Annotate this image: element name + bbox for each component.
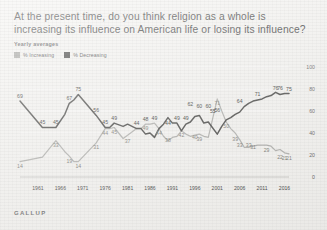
y-tick-label: 20 <box>309 152 315 158</box>
x-tick-label: 2011 <box>257 185 268 191</box>
legend-item-increasing[interactable]: % Increasing <box>14 52 54 58</box>
x-tick-label: 2001 <box>212 185 223 191</box>
x-tick-label: 1986 <box>144 185 155 191</box>
data-label: 45 <box>53 120 59 126</box>
data-label: 21 <box>286 156 292 162</box>
data-label: 44 <box>156 130 162 136</box>
x-tick-label: 2006 <box>234 185 245 191</box>
chart-card: At the present time, do you think religi… <box>0 0 327 230</box>
data-label: 45 <box>102 120 108 126</box>
data-label: 49 <box>174 115 180 121</box>
data-label: 31 <box>250 145 256 151</box>
data-label: 44 <box>102 130 108 136</box>
y-tick-label: 100 <box>306 64 315 70</box>
data-label: 29 <box>264 147 270 153</box>
chart-legend: % Increasing % Decreasing <box>14 52 315 58</box>
data-label: 45 <box>111 129 117 135</box>
data-label: 42 <box>179 133 185 139</box>
x-tick-label: 1981 <box>122 185 133 191</box>
y-tick-label: 80 <box>309 86 315 92</box>
data-label: 48 <box>143 116 149 122</box>
data-label: 64 <box>237 99 243 105</box>
line-chart-svg: 1433191431444537494438424039715039333331… <box>12 61 315 181</box>
x-tick-label: 1976 <box>100 185 111 191</box>
data-label: 62 <box>187 101 193 107</box>
chart-subtitle: Yearly averages <box>14 41 315 47</box>
data-label: 49 <box>143 125 149 131</box>
data-label: 75 <box>75 87 81 93</box>
data-label: 39 <box>196 136 202 142</box>
data-label: 44 <box>134 121 140 127</box>
legend-item-decreasing[interactable]: % Decreasing <box>64 52 107 58</box>
x-axis: 1961196619711976198119861991199620012006… <box>12 182 315 196</box>
data-label: 69 <box>17 93 23 99</box>
source-attribution: GALLUP <box>14 210 46 216</box>
data-label: 31 <box>93 145 99 151</box>
data-label: 14 <box>75 163 81 169</box>
x-tick-label: 1991 <box>167 185 178 191</box>
x-tick-label: 1961 <box>32 185 43 191</box>
data-label: 76 <box>277 86 283 92</box>
data-label: 14 <box>17 163 23 169</box>
legend-swatch-increasing <box>14 52 20 58</box>
data-label: 56 <box>93 108 99 114</box>
legend-label-increasing: % Increasing <box>23 52 54 58</box>
data-label: 39 <box>232 136 238 142</box>
legend-label-decreasing: % Decreasing <box>73 52 107 58</box>
data-label: 71 <box>214 101 220 107</box>
y-tick-label: 0 <box>312 174 315 180</box>
data-label: 67 <box>66 96 72 102</box>
data-label: 49 <box>111 115 117 121</box>
data-label: 19 <box>66 158 72 164</box>
data-label: 49 <box>152 115 158 121</box>
data-label: 50 <box>223 124 229 130</box>
data-label: 45 <box>40 120 46 126</box>
data-label: 44 <box>165 121 171 127</box>
data-label: 49 <box>183 115 189 121</box>
plot-area: 1433191431444537494438424039715039333331… <box>12 61 315 181</box>
x-tick-label: 1971 <box>77 185 88 191</box>
data-label: 33 <box>53 143 59 149</box>
data-label: 56 <box>214 108 220 114</box>
x-tick-label: 1996 <box>189 185 200 191</box>
y-tick-label: 40 <box>309 130 315 136</box>
data-label: 33 <box>237 143 243 149</box>
data-label: 37 <box>125 138 131 144</box>
y-tick-label: 60 <box>309 108 315 114</box>
data-label: 75 <box>286 87 292 93</box>
legend-swatch-decreasing <box>64 52 70 58</box>
x-tick-label: 2016 <box>279 185 290 191</box>
data-label: 38 <box>165 137 171 143</box>
page-title: At the present time, do you think religi… <box>14 10 314 36</box>
data-label: 60 <box>196 103 202 109</box>
x-tick-label: 1966 <box>55 185 66 191</box>
data-label: 71 <box>255 91 261 97</box>
